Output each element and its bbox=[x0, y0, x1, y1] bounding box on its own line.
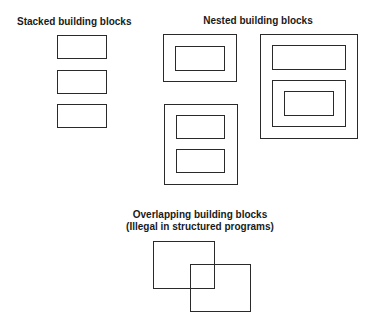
nested-title: Nested building blocks bbox=[198, 15, 318, 27]
nested-block-c-innermost bbox=[284, 91, 334, 116]
stacked-title: Stacked building blocks bbox=[17, 16, 131, 28]
overlapping-block-2 bbox=[190, 264, 251, 312]
stacked-block-1 bbox=[57, 35, 107, 59]
nested-block-c-inner-top bbox=[272, 45, 346, 70]
nested-block-b-inner-2 bbox=[176, 149, 225, 173]
overlapping-title-line-2: (Illegal in structured programs) bbox=[100, 221, 300, 233]
stacked-block-3 bbox=[57, 104, 107, 128]
overlapping-title-line-1: Overlapping building blocks bbox=[100, 209, 300, 221]
nested-block-a-inner bbox=[175, 46, 225, 71]
stacked-block-2 bbox=[57, 70, 107, 94]
nested-block-b-inner-1 bbox=[176, 115, 225, 139]
